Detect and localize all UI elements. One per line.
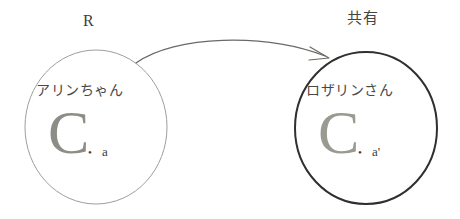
left-person-circle	[25, 50, 167, 204]
relation-arrow-path	[136, 40, 325, 63]
diagram-canvas: R 共有 アリンちゃん C • a ロザリンさん C • a'	[0, 0, 460, 219]
right-person-circle	[295, 52, 437, 204]
diagram-vector-layer	[0, 0, 460, 219]
